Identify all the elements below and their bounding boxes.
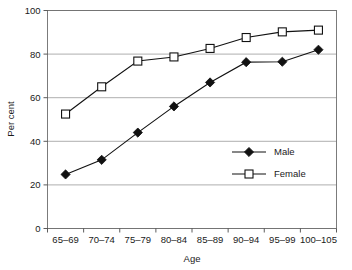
data-point [314,26,322,34]
data-point [278,28,286,36]
data-point [242,34,250,42]
x-tick-label: 80–84 [161,234,187,245]
legend-marker [245,170,253,178]
y-tick-label: 80 [30,49,41,60]
y-tick-label: 40 [30,136,41,147]
x-tick-label: 100–105 [300,234,337,245]
legend-label: Female [274,168,306,179]
data-point [134,57,142,65]
data-point [62,110,70,118]
chart-background [0,0,352,270]
x-axis-title: Age [184,253,201,264]
x-tick-label: 90–94 [233,234,259,245]
data-point [98,83,106,91]
data-point [170,53,178,61]
y-tick-label: 100 [25,5,41,16]
x-tick-label: 65–69 [52,234,78,245]
legend-label: Male [274,146,295,157]
y-axis-title: Per cent [5,101,16,137]
chart-container: 020406080100 65–6970–7475–7980–8485–8990… [0,0,352,270]
x-tick-label: 95–99 [269,234,295,245]
y-tick-label: 60 [30,92,41,103]
line-chart: 020406080100 65–6970–7475–7980–8485–8990… [0,0,352,270]
x-tick-label: 70–74 [88,234,114,245]
x-tick-label: 85–89 [197,234,223,245]
data-point [206,44,214,52]
y-tick-label: 20 [30,179,41,190]
x-tick-label: 75–79 [125,234,151,245]
y-tick-label: 0 [35,223,40,234]
